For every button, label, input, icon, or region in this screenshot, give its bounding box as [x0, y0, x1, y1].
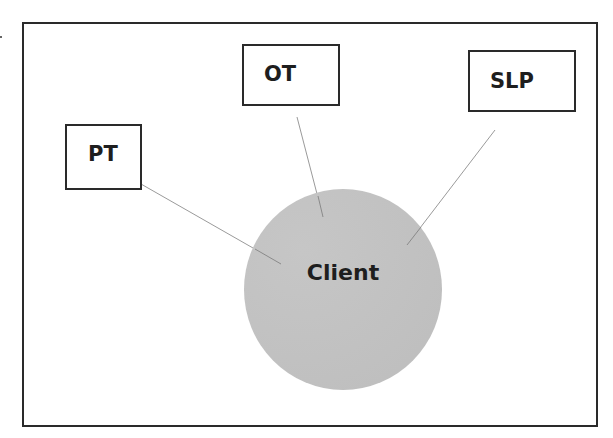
node-slp: SLP [468, 50, 576, 112]
node-pt-label: PT [88, 144, 118, 165]
node-ot-label: OT [264, 64, 296, 85]
node-ot: OT [242, 44, 340, 106]
edge-ot-client-inner [318, 196, 323, 217]
edge-slp-client-inner [407, 227, 421, 245]
node-pt: PT [65, 124, 142, 190]
node-slp-label: SLP [490, 71, 534, 92]
edge-pt-client-inner [255, 249, 281, 264]
